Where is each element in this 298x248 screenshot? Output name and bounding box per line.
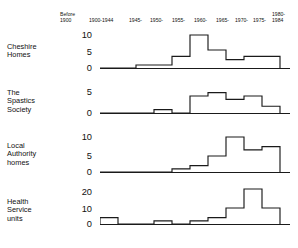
ytick-health-20: 20 (66, 188, 92, 197)
plot-cheshire-homes (100, 30, 290, 72)
step-series-local-authority-homes (100, 137, 280, 172)
step-series-spastics-society (100, 93, 280, 113)
period-axis-labels: Before 1900 1900-1944 1945- 1950- 1955- … (0, 0, 298, 26)
plot-health-service-units (100, 186, 290, 232)
ytick-spastics-0: 0 (66, 109, 92, 118)
period-label-1950: 1950- (150, 18, 163, 24)
ytick-local-0: 0 (66, 168, 92, 177)
period-label-1970: 1970- (235, 18, 248, 24)
ytick-cheshire-10: 10 (66, 31, 92, 40)
period-label-1980-1984: 1980- 1984 (272, 12, 285, 24)
panel-label-spastics-society: The Spastics Society (7, 89, 35, 114)
period-label-1955: 1955- (172, 18, 185, 24)
ytick-cheshire-0: 0 (66, 64, 92, 73)
period-label-1945: 1945- (129, 18, 142, 24)
panel-label-local-authority-homes: Local Authority homes (7, 142, 36, 167)
ytick-spastics-5: 5 (66, 88, 92, 97)
panel-health-service-units: Health Service units 20 10 0 (0, 186, 298, 232)
panel-spastics-society: The Spastics Society 5 0 (0, 84, 298, 122)
period-label-1900-1944: 1900-1944 (89, 18, 113, 24)
ytick-local-5: 5 (66, 152, 92, 161)
ytick-local-10: 10 (66, 133, 92, 142)
period-label-1965: 1965- (216, 18, 229, 24)
panel-local-authority-homes: Local Authority homes 10 5 0 (0, 131, 298, 175)
ytick-health-0: 0 (66, 220, 92, 229)
panel-label-cheshire-homes: Cheshire Homes (7, 43, 37, 60)
panel-cheshire-homes: Cheshire Homes 10 5 0 (0, 30, 298, 72)
step-series-health-service-units (100, 189, 280, 224)
period-label-1960: 1960- (194, 18, 207, 24)
plot-spastics-society (100, 84, 290, 122)
step-series-cheshire-homes (100, 35, 280, 68)
period-label-1975: 1975- (253, 18, 266, 24)
plot-local-authority-homes (100, 131, 290, 175)
figure-small-multiples-histograms: Before 1900 1900-1944 1945- 1950- 1955- … (0, 0, 298, 248)
panel-label-health-service-units: Health Service units (7, 198, 32, 223)
ytick-cheshire-5: 5 (66, 48, 92, 57)
ytick-health-10: 10 (66, 205, 92, 214)
period-label-before-1900: Before 1900 (60, 12, 75, 24)
